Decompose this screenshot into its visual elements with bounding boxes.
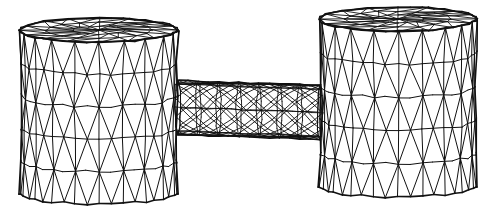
mesh-cap-diagonal-edge [46, 31, 74, 32]
mesh-cap-back-rim-edge [362, 8, 373, 9]
mesh-ring-edge [135, 202, 146, 203]
mesh-ring-edge [399, 130, 411, 131]
mesh-ring-edge [99, 139, 112, 140]
mesh-ring-edge [342, 195, 350, 196]
mesh-ring-edge [122, 137, 135, 138]
mesh-ring-edge [455, 192, 462, 193]
neck-end-ring-edge [176, 90, 177, 98]
neck-ring-edge [257, 120, 258, 128]
mesh-ring-edge [411, 196, 423, 197]
neck-bottom-silhouette-edge [259, 137, 269, 138]
mesh-ring-edge [423, 162, 432, 163]
mesh-cap-back-rim-edge [155, 22, 163, 23]
mesh-ring-edge [124, 170, 134, 171]
mesh-vertical-edge [422, 64, 423, 96]
mesh-vertical-edge [476, 152, 477, 187]
mesh-ring-edge [52, 202, 65, 203]
neck-end-ring-edge [318, 103, 319, 112]
mesh-ring-edge [422, 128, 433, 129]
mesh-ring-edge [43, 202, 52, 203]
finite-element-mesh-diagram: Finite element mesh of a dumbbell (dogbo… [0, 0, 497, 214]
mesh-vertical-edge [471, 123, 472, 156]
neck-end-ring-edge [178, 81, 179, 85]
mesh-ring-edge [351, 195, 361, 196]
mesh-ring-edge [162, 69, 170, 70]
mesh-cap-back-rim-edge [177, 28, 178, 31]
mesh-ring-edge [135, 136, 145, 137]
mesh-cap-back-rim-edge [342, 10, 351, 11]
mesh-ring-edge [460, 158, 468, 159]
mesh-figure-root: Finite element mesh of a dumbbell (dogbo… [0, 0, 497, 214]
mesh-cap-back-rim-edge [43, 21, 52, 22]
neck-longitudinal-edge [307, 111, 317, 112]
mesh-ring-edge [462, 59, 468, 60]
mesh-ring-edge [111, 203, 123, 204]
mesh-vertical-edge [445, 161, 446, 195]
mesh-ring-edge [434, 195, 445, 196]
mesh-cap-back-rim-edge [454, 11, 462, 12]
mesh-cap-back-rim-edge [53, 20, 64, 21]
mesh-ring-edge [154, 199, 164, 200]
mesh-cap-back-rim-edge [352, 9, 363, 10]
neck-ring-edge [277, 102, 278, 110]
mesh-ring-edge [163, 166, 168, 167]
neck-longitudinal-edge [226, 109, 236, 110]
mesh-ring-edge [433, 128, 444, 129]
mesh-cap-back-rim-edge [476, 17, 477, 20]
mesh-cap-back-rim-edge [63, 19, 74, 20]
